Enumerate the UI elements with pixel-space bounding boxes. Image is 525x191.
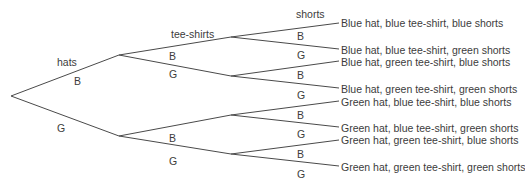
branch-label-shorts-g-3: G bbox=[297, 128, 305, 140]
outcome-3: Blue hat, green tee-shirt, blue shorts bbox=[341, 56, 510, 68]
branch-shorts-6 bbox=[231, 115, 339, 127]
stage-header-hats: hats bbox=[57, 56, 77, 68]
branch-label-shorts-g-2: G bbox=[297, 89, 305, 101]
branch-label-hat-b: B bbox=[74, 75, 81, 87]
branch-shorts-2 bbox=[231, 37, 339, 49]
branch-shorts-8 bbox=[231, 154, 339, 166]
branch-shorts-4 bbox=[231, 76, 339, 88]
branch-label-shorts-b-3: B bbox=[297, 109, 304, 121]
stage-header-tee-shirts: tee-shirts bbox=[171, 28, 214, 40]
branch-label-shorts-b-4: B bbox=[297, 148, 304, 160]
branch-shorts-5 bbox=[231, 101, 339, 115]
branch-label-shorts-g-1: G bbox=[297, 49, 305, 61]
branch-label-tee-b-1: B bbox=[169, 50, 176, 62]
branch-label-shorts-b-1: B bbox=[297, 30, 304, 42]
branch-label-tee-g-2: G bbox=[169, 155, 177, 167]
outcome-4: Blue hat, green tee-shirt, green shorts bbox=[341, 83, 517, 95]
outcome-6: Green hat, blue tee-shirt, green shorts bbox=[341, 122, 518, 134]
outcome-8: Green hat, green tee-shirt, green shorts bbox=[341, 161, 525, 173]
outcome-7: Green hat, green tee-shirt, blue shorts bbox=[341, 134, 518, 146]
branch-shorts-3 bbox=[231, 61, 339, 76]
stage-header-shorts: shorts bbox=[296, 8, 325, 20]
branch-label-tee-g-1: G bbox=[169, 68, 177, 80]
outcome-2: Blue hat, blue tee-shirt, green shorts bbox=[341, 44, 510, 56]
branch-label-shorts-b-2: B bbox=[297, 69, 304, 81]
branch-shorts-1 bbox=[231, 23, 339, 37]
outcome-1: Blue hat, blue tee-shirt, blue shorts bbox=[341, 17, 503, 29]
branch-label-tee-b-2: B bbox=[169, 132, 176, 144]
branch-label-hat-g: G bbox=[57, 122, 65, 134]
branch-label-shorts-g-4: G bbox=[297, 168, 305, 180]
outcome-5: Green hat, blue tee-shirt, blue shorts bbox=[341, 96, 511, 108]
branch-shorts-7 bbox=[231, 140, 339, 154]
